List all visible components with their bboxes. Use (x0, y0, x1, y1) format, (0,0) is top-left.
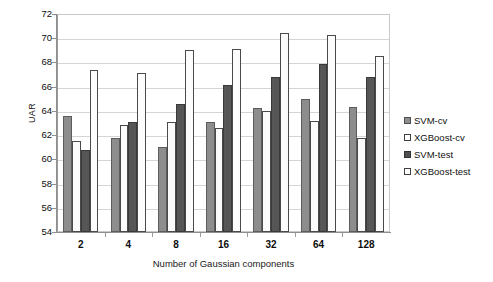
bar (327, 35, 336, 232)
bars-layer (57, 14, 390, 232)
bar (357, 138, 366, 232)
x-axis-tick-mark (295, 233, 296, 237)
y-axis-tick-mark (52, 38, 57, 39)
y-axis-tick-label: 66 (26, 82, 52, 92)
bar (167, 122, 176, 232)
y-axis-tick-label: 72 (26, 9, 52, 19)
y-axis-tick-label: 70 (26, 33, 52, 43)
y-axis-tick-mark (52, 135, 57, 136)
bar-group (200, 14, 248, 232)
y-axis-tick-label: 62 (26, 130, 52, 140)
x-axis-tick-label: 64 (295, 239, 343, 251)
bar-group (105, 14, 153, 232)
legend-swatch-icon (404, 134, 411, 141)
y-axis-tick-mark (52, 232, 57, 233)
y-axis-tick-label: 58 (26, 179, 52, 189)
y-axis-tick-mark (52, 111, 57, 112)
y-axis-tick-mark (52, 62, 57, 63)
y-axis-tick-mark (52, 184, 57, 185)
legend-label: SVM-test (414, 149, 453, 160)
legend-label: XGBoost-test (414, 166, 471, 177)
x-axis-tick-label: 4 (105, 239, 153, 251)
bar-group (342, 14, 390, 232)
bar (262, 111, 271, 232)
x-axis-tick-mark (342, 233, 343, 237)
x-axis-spine (56, 232, 391, 233)
bar-chart-figure: UAR 72706866646260585654 248163264128 Nu… (0, 0, 493, 282)
legend-swatch-icon (404, 151, 411, 158)
bar (253, 108, 262, 232)
y-axis-tick-label: 60 (26, 154, 52, 164)
bar (319, 64, 328, 232)
bar (111, 138, 120, 232)
y-axis-tick-label: 56 (26, 203, 52, 213)
bar-group (247, 14, 295, 232)
y-axis-tick-mark (52, 87, 57, 88)
y-axis-tick-label: 68 (26, 57, 52, 67)
legend-swatch-icon (404, 168, 411, 175)
bar (310, 121, 319, 232)
x-axis-tick-label: 32 (247, 239, 295, 251)
bar (349, 107, 358, 232)
bar (271, 77, 280, 232)
bar (63, 116, 72, 232)
bar-group (57, 14, 105, 232)
bar (280, 33, 289, 232)
bar (223, 85, 232, 232)
bar (137, 73, 146, 232)
x-axis-tick-label: 16 (200, 239, 248, 251)
y-axis-tick-label: 54 (26, 227, 52, 237)
bar (158, 147, 167, 232)
bar-group (295, 14, 343, 232)
bar (72, 141, 81, 232)
bar (232, 49, 241, 232)
bar (81, 150, 90, 232)
bar-group (152, 14, 200, 232)
y-axis-tick-labels: 72706866646260585654 (26, 0, 52, 282)
y-axis-tick-mark (52, 14, 57, 15)
bar (366, 77, 375, 232)
bar (375, 56, 384, 232)
bar (90, 70, 99, 232)
bar (120, 125, 129, 232)
bar (215, 128, 224, 232)
chart-legend: SVM-cvXGBoost-cvSVM-testXGBoost-test (404, 112, 490, 180)
legend-entry[interactable]: XGBoost-cv (404, 129, 490, 145)
bar (301, 99, 310, 232)
x-axis-tick-label: 8 (152, 239, 200, 251)
x-axis-tick-label: 2 (57, 239, 105, 251)
bar (185, 50, 194, 232)
bar (176, 104, 185, 232)
x-axis-tick-label: 128 (342, 239, 390, 251)
y-axis-tick-mark (52, 159, 57, 160)
legend-swatch-icon (404, 117, 411, 124)
legend-entry[interactable]: XGBoost-test (404, 163, 490, 179)
y-axis-tick-label: 64 (26, 106, 52, 116)
legend-label: XGBoost-cv (414, 132, 465, 143)
x-axis-tick-mark (152, 233, 153, 237)
legend-entry[interactable]: SVM-cv (404, 112, 490, 128)
legend-label: SVM-cv (414, 115, 447, 126)
x-axis-tick-mark (200, 233, 201, 237)
x-axis-tick-mark (105, 233, 106, 237)
legend-entry[interactable]: SVM-test (404, 146, 490, 162)
x-axis-tick-labels: 248163264128 (57, 239, 390, 255)
bar (206, 122, 215, 232)
x-axis-tick-mark (247, 233, 248, 237)
x-axis-title: Number of Gaussian components (57, 258, 390, 269)
bar (128, 122, 137, 232)
y-axis-tick-mark (52, 208, 57, 209)
